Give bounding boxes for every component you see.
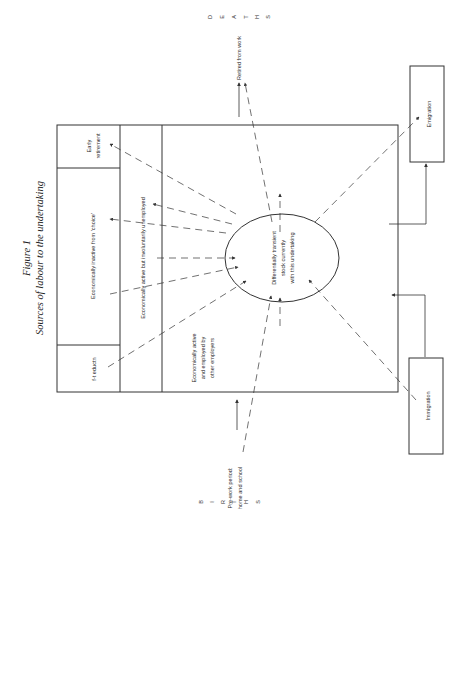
flow-arrow-to-unemployed [153,204,232,224]
figure-number: Figure 1 [21,240,32,277]
flow-arrow-to-inactive [110,219,226,233]
main-population-box [57,125,398,392]
flow-arrow-stock-to-emigration [315,117,419,222]
svg-text:and employed by: and employed by [200,336,206,379]
compartment-inactive: Economically inactive from 'choice' [90,213,96,299]
compartment-unemployed: Economically active but involuntarily un… [140,197,146,319]
svg-text:S: S [255,500,261,504]
figure-title: Sources of labour to the undertaking [34,181,45,335]
flow-arrow-prework-to-stock [243,296,271,452]
flow-arrow-population-to-emigration [389,164,426,224]
flow-arrow-immigration-to-population [392,295,425,357]
svg-text:retirement: retirement [95,133,101,159]
compartment-ft-education: f-t eductn [91,357,97,380]
flow-arrow-from-inactive [110,267,238,294]
svg-text:with this undertaking: with this undertaking [289,233,295,285]
labour-sources-diagram: Figure 1 Sources of labour to the undert… [0,0,463,679]
immigration-label: Immigration [425,391,431,420]
svg-text:Economically active: Economically active [191,333,197,382]
svg-text:Differentially transient: Differentially transient [271,231,277,285]
svg-text:B: B [198,500,204,504]
svg-text:other employers: other employers [209,338,215,378]
svg-text:E: E [219,15,225,19]
flow-arrow-stock-to-retired [245,83,272,222]
svg-text:H: H [254,15,260,19]
svg-text:A: A [231,15,237,19]
flow-arrow-immigration-to-stock [309,280,416,400]
emigration-label: Emigration [426,101,432,128]
svg-text:D: D [207,15,213,19]
deaths-label: D E A T H S [207,15,271,19]
retired-label: Retired from work [236,36,242,80]
flow-arrow-to-early-retirement [110,144,236,214]
figure-title-block: Figure 1 Sources of labour to the undert… [21,181,45,335]
svg-text:R: R [220,500,226,504]
svg-text:I: I [209,501,215,503]
compartment-employed-elsewhere: Economically active and employed by othe… [191,333,215,382]
svg-text:S: S [265,15,271,19]
svg-text:H: H [243,500,249,504]
svg-text:Early: Early [86,139,92,152]
stock-label: Differentially transient stock currently… [271,231,295,285]
svg-text:T: T [243,15,249,19]
compartment-early-retirement: Early retirement [86,133,101,159]
flow-arrow-from-ft-education [108,281,246,367]
svg-text:stock currently: stock currently [280,240,286,276]
